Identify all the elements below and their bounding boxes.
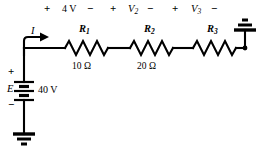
resistor-r3-label: R3 bbox=[207, 24, 218, 35]
drop1-plus-sign: + bbox=[44, 3, 50, 14]
drop3-minus-sign: − bbox=[211, 3, 217, 14]
resistor-r2-symbol bbox=[130, 41, 173, 55]
ground-symbol-bottom bbox=[13, 134, 35, 144]
drop1-minus-sign: − bbox=[87, 3, 93, 14]
circuit-diagram: + 4 V − + V2 − + V3 − R1 R2 R3 10 Ω 20 Ω… bbox=[0, 0, 260, 159]
drop3-plus-sign: + bbox=[172, 3, 178, 14]
ground-symbol-right bbox=[234, 20, 256, 30]
source-designator: E bbox=[7, 84, 13, 95]
battery-symbol bbox=[14, 82, 34, 100]
drop2-minus-sign: − bbox=[147, 3, 153, 14]
junction-dot-right bbox=[243, 46, 248, 51]
resistor-r1-name-subscript: 1 bbox=[86, 27, 90, 36]
resistor-r2-value: 20 Ω bbox=[137, 62, 156, 72]
current-arrowhead bbox=[40, 33, 49, 42]
drop3-value: V3 bbox=[191, 4, 201, 15]
source-plus-sign: + bbox=[8, 66, 14, 77]
resistor-r1-name-base: R bbox=[79, 23, 86, 34]
resistor-r2-name-base: R bbox=[144, 23, 151, 34]
drop2-value-subscript: 2 bbox=[134, 7, 138, 16]
current-label: I bbox=[31, 26, 35, 37]
source-value: 40 V bbox=[38, 85, 58, 95]
resistor-r1-label: R1 bbox=[79, 24, 90, 35]
resistor-r2-name-subscript: 2 bbox=[151, 27, 155, 36]
resistor-r2-label: R2 bbox=[144, 24, 155, 35]
resistor-r3-symbol bbox=[193, 41, 236, 55]
drop2-plus-sign: + bbox=[110, 3, 116, 14]
drop2-value: V2 bbox=[128, 4, 138, 15]
source-minus-sign: − bbox=[8, 99, 14, 110]
resistor-r1-value: 10 Ω bbox=[72, 62, 91, 72]
drop1-value: 4 V bbox=[62, 4, 77, 14]
current-arrow bbox=[24, 37, 41, 56]
resistor-r1-symbol bbox=[65, 41, 108, 55]
schematic-canvas bbox=[0, 0, 260, 159]
resistor-r3-name-base: R bbox=[207, 23, 214, 34]
resistor-r3-name-subscript: 3 bbox=[214, 27, 218, 36]
drop3-value-subscript: 3 bbox=[197, 7, 201, 16]
